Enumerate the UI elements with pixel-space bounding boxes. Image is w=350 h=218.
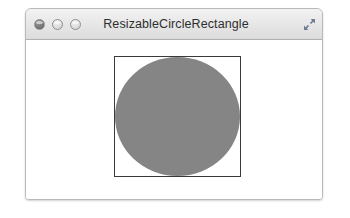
window-controls bbox=[34, 19, 81, 30]
resizable-circle[interactable] bbox=[115, 57, 240, 176]
close-button[interactable] bbox=[34, 19, 45, 30]
title-bar[interactable]: ResizableCircleRectangle bbox=[26, 9, 322, 40]
drawing-canvas[interactable] bbox=[26, 40, 322, 199]
app-window: ResizableCircleRectangle bbox=[25, 8, 323, 200]
resizable-rectangle[interactable] bbox=[114, 56, 241, 177]
maximize-button[interactable] bbox=[70, 19, 81, 30]
minimize-button[interactable] bbox=[52, 19, 63, 30]
expand-fullscreen-icon[interactable] bbox=[302, 17, 316, 31]
